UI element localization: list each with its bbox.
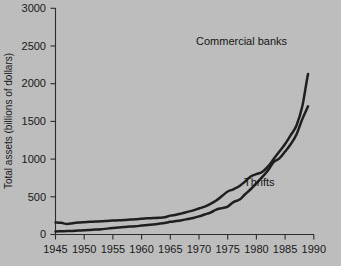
xtick-label-1960: 1960 xyxy=(129,243,153,255)
xtick-label-1980: 1980 xyxy=(244,243,268,255)
ytick-label-3000: 3000 xyxy=(22,2,46,14)
ytick-label-2500: 2500 xyxy=(22,40,46,52)
xtick-label-1990: 1990 xyxy=(302,243,326,255)
ytick-label-1000: 1000 xyxy=(22,153,46,165)
ytick-label-1500: 1500 xyxy=(22,115,46,127)
figure-root: 0 500 1000 1500 2000 2500 3000 1945 1950… xyxy=(0,0,341,266)
y-tick-marks xyxy=(51,8,56,234)
xtick-label-1945: 1945 xyxy=(43,243,67,255)
xtick-label-1955: 1955 xyxy=(101,243,125,255)
xtick-label-1975: 1975 xyxy=(215,243,239,255)
xtick-label-1985: 1985 xyxy=(273,243,297,255)
ytick-label-500: 500 xyxy=(28,191,46,203)
series-label-commercial-banks: Commercial banks xyxy=(196,35,288,47)
line-chart: 0 500 1000 1500 2000 2500 3000 1945 1950… xyxy=(0,0,341,266)
xtick-label-1965: 1965 xyxy=(158,243,182,255)
ytick-label-0: 0 xyxy=(40,228,46,240)
x-tick-marks xyxy=(56,235,314,240)
xtick-label-1970: 1970 xyxy=(187,243,211,255)
series-label-thrifts: Thrifts xyxy=(244,176,275,188)
y-axis-title: Total assets (billions of dollars) xyxy=(3,53,14,189)
series-line-commercial-banks xyxy=(56,74,309,224)
xtick-label-1950: 1950 xyxy=(72,243,96,255)
ytick-label-2000: 2000 xyxy=(22,77,46,89)
